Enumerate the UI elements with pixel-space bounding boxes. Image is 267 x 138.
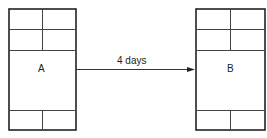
- edge-a-to-b-arrow: [76, 67, 195, 72]
- node-b-label: B: [227, 64, 234, 74]
- edge-label: 4 days: [117, 56, 146, 66]
- node-a-label: A: [38, 64, 45, 74]
